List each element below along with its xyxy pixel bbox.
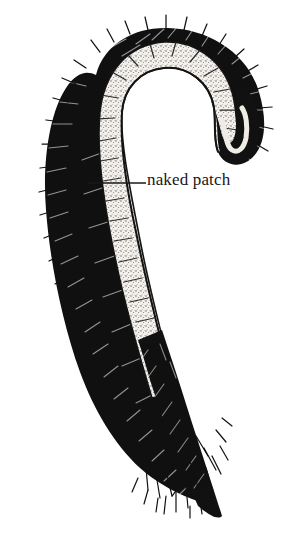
tail-illustration [0, 0, 296, 538]
figure-root: naked patch [0, 0, 296, 538]
